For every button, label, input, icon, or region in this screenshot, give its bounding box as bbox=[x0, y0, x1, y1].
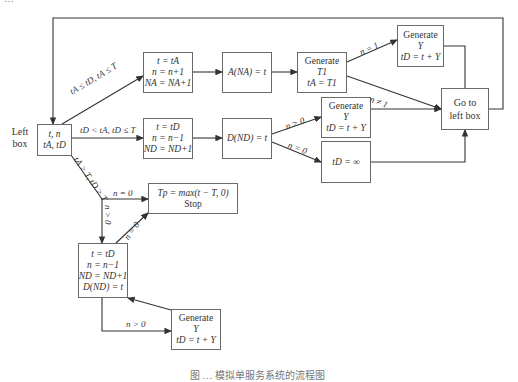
generate-y-bottom-line2: Y bbox=[193, 324, 198, 334]
stop-line2: Stop bbox=[184, 199, 201, 210]
generate-y-mid-line1: Generate bbox=[329, 101, 363, 112]
generate-t1-line3: tA = T1 bbox=[307, 78, 336, 88]
generate-y-top-box: Generate Y tD = t + Y bbox=[397, 25, 444, 67]
generate-y-top-line1: Generate bbox=[403, 30, 437, 41]
generate-y-bottom-box: Generate Y tD = t + Y bbox=[171, 309, 221, 350]
departure-record-box: D(ND) = t bbox=[222, 118, 272, 159]
departure-update-box: t = tD n = n−1 ND = ND+1 bbox=[143, 118, 193, 159]
arrival-update-box: t = tA n = n+1 NA = NA+1 bbox=[143, 52, 193, 93]
go-to-left-line2: left box bbox=[450, 109, 481, 122]
final-departure-line4: D(ND) = t bbox=[83, 282, 123, 292]
generate-t1-box: Generate T1 tA = T1 bbox=[297, 52, 347, 93]
left-label-line2: box bbox=[6, 138, 34, 150]
stop-box: Tp = max(t − T, 0) Stop bbox=[148, 183, 238, 214]
edge-label-n-eq-0-stop: n = 0 bbox=[113, 188, 133, 198]
final-departure-line1: t = tD bbox=[91, 249, 114, 259]
departure-record-line1: D(ND) = t bbox=[227, 133, 267, 143]
arrival-update-line2: n = n+1 bbox=[152, 67, 184, 77]
generate-y-mid-box: Generate Y tD = t + Y bbox=[321, 97, 371, 138]
left-box-label: Left box bbox=[6, 126, 34, 150]
generate-t1-line2: T1 bbox=[317, 67, 327, 77]
go-to-left-line1: Go to bbox=[454, 96, 477, 109]
td-infinity-line1: tD = ∞ bbox=[332, 157, 359, 167]
departure-update-line2: n = n−1 bbox=[152, 133, 184, 143]
arrival-update-line1: t = tA bbox=[157, 56, 179, 66]
arrival-record-line1: A(NA) = t bbox=[228, 67, 266, 77]
stop-line1: Tp = max(t − T, 0) bbox=[157, 188, 228, 198]
arrival-update-line3: NA = NA+1 bbox=[145, 78, 191, 88]
edge-label-to-departure: tD < tA, tD ≤ T bbox=[80, 125, 136, 135]
left-box-line1: t, n bbox=[48, 129, 60, 139]
departure-update-line1: t = tD bbox=[156, 122, 179, 132]
edge-label-n-gt-0-bottom: n > 0 bbox=[126, 319, 146, 329]
go-to-left-box: Go to left box bbox=[441, 88, 489, 130]
generate-t1-line1: Generate bbox=[305, 56, 339, 67]
generate-y-mid-line2: Y bbox=[343, 112, 348, 122]
generate-y-bottom-line1: Generate bbox=[179, 313, 213, 324]
arrival-record-box: A(NA) = t bbox=[222, 52, 272, 93]
left-box: t, n tA, tD bbox=[37, 124, 72, 156]
edge-label-n-gt-0-down: n > 0 bbox=[103, 205, 113, 225]
figure-caption: 图 … 模拟单服务系统的流程图 bbox=[190, 367, 325, 382]
generate-y-mid-line3: tD = t + Y bbox=[326, 123, 366, 133]
left-box-line2: tA, tD bbox=[43, 140, 66, 150]
generate-y-bottom-line3: tD = t + Y bbox=[176, 335, 216, 345]
final-departure-line3: ND = ND+1 bbox=[79, 271, 128, 281]
final-departure-box: t = tD n = n−1 ND = ND+1 D(ND) = t bbox=[78, 243, 128, 298]
left-label-line1: Left bbox=[6, 126, 34, 138]
generate-y-top-line2: Y bbox=[418, 41, 423, 51]
clipped-header-text: … bbox=[4, 0, 14, 4]
td-infinity-box: tD = ∞ bbox=[321, 141, 371, 183]
generate-y-top-line3: tD = t + Y bbox=[401, 52, 441, 62]
departure-update-line3: ND = ND+1 bbox=[144, 144, 193, 154]
final-departure-line2: n = n−1 bbox=[87, 260, 119, 270]
